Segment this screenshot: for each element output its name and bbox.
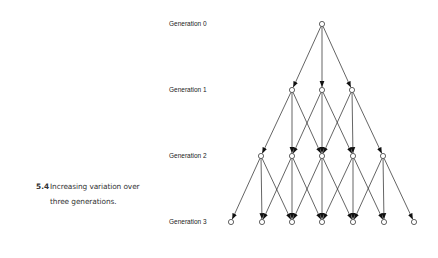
node-gen3-2 xyxy=(289,219,294,224)
node-gen1-1 xyxy=(319,87,324,92)
node-gen2-2 xyxy=(319,153,324,158)
generation-tree-diagram: Generation 0 Generation 1 Generation 2 G… xyxy=(0,0,438,258)
edge-arrow xyxy=(323,26,351,87)
node-gen3-6 xyxy=(411,219,416,224)
node-gen0-0 xyxy=(319,21,324,26)
node-gen2-3 xyxy=(350,153,355,158)
generation-3-label: Generation 3 xyxy=(169,218,207,225)
generation-1-label: Generation 1 xyxy=(169,86,207,93)
node-gen3-0 xyxy=(228,219,233,224)
node-gen1-2 xyxy=(349,87,354,92)
caption-line-1: Increasing variation over xyxy=(50,179,170,194)
generation-2-label: Generation 2 xyxy=(169,152,207,159)
edge-arrow xyxy=(384,158,413,219)
node-gen2-4 xyxy=(380,153,385,158)
edge-arrow xyxy=(261,159,262,220)
edge-arrow xyxy=(383,159,384,220)
node-gen3-3 xyxy=(319,219,324,224)
node-gen3-4 xyxy=(350,219,355,224)
edge-arrow xyxy=(353,92,382,153)
node-gen3-1 xyxy=(259,219,264,224)
generation-0-label: Generation 0 xyxy=(169,20,207,27)
edge-arrow xyxy=(293,26,321,87)
node-gen1-0 xyxy=(289,87,294,92)
caption-text: Increasing variation over three generati… xyxy=(50,179,170,209)
node-gen3-5 xyxy=(381,219,386,224)
edges xyxy=(232,26,413,219)
edge-arrow xyxy=(262,92,291,153)
caption-line-2: three generations. xyxy=(50,194,170,209)
node-gen2-1 xyxy=(289,153,294,158)
edge-arrow xyxy=(352,93,353,154)
nodes xyxy=(228,21,416,224)
figure-number: 5.4 xyxy=(36,179,49,194)
edge-arrow xyxy=(232,158,260,219)
generation-labels: Generation 0 Generation 1 Generation 2 G… xyxy=(169,20,207,225)
node-gen2-0 xyxy=(258,153,263,158)
